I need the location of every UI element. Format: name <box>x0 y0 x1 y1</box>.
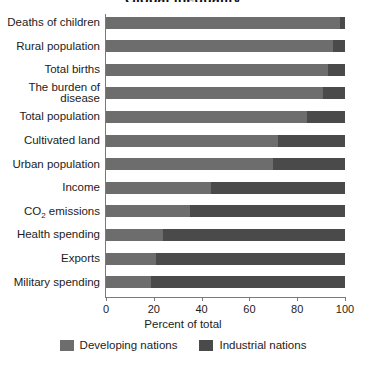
bar-track <box>106 17 345 29</box>
bar-segment-developing <box>106 182 211 194</box>
bar-segment-developing <box>106 135 278 147</box>
x-axis-tick-label: 60 <box>243 303 255 315</box>
bar-track <box>106 205 345 217</box>
x-axis-tick-label: 80 <box>291 303 303 315</box>
bar-track <box>106 40 345 52</box>
bar-segment-industrial <box>333 40 345 52</box>
bar-track <box>106 158 345 170</box>
bar-segment-industrial <box>211 182 345 194</box>
bar-row: Total births <box>0 61 366 78</box>
bar-row-label: Health spending <box>0 226 100 243</box>
bar-row-label: Exports <box>0 250 100 267</box>
legend-swatch-icon <box>60 340 74 351</box>
bar-track <box>106 182 345 194</box>
bar-segment-developing <box>106 111 307 123</box>
x-axis-tick-label: 20 <box>148 303 160 315</box>
x-axis-tick-mark <box>106 297 107 301</box>
x-axis-tick-mark <box>249 297 250 301</box>
legend-label: Industrial nations <box>219 339 306 351</box>
bar-row: Health spending <box>0 226 366 243</box>
bar-segment-developing <box>106 205 190 217</box>
bar-segment-industrial <box>156 253 345 265</box>
bar-track <box>106 87 345 99</box>
bar-segment-industrial <box>328 64 345 76</box>
bar-row-label: Cultivated land <box>0 132 100 149</box>
bar-row: Urban population <box>0 156 366 173</box>
bar-segment-developing <box>106 253 156 265</box>
bar-row-label: Income <box>0 179 100 196</box>
x-axis-tick-label: 40 <box>195 303 207 315</box>
bar-segment-industrial <box>190 205 345 217</box>
x-axis-tick-label: 0 <box>103 303 109 315</box>
bar-track <box>106 229 345 241</box>
bar-segment-industrial <box>163 229 345 241</box>
bar-row: CO2 emissions <box>0 203 366 220</box>
legend-swatch-icon <box>199 340 213 351</box>
x-axis-tick-mark <box>345 297 346 301</box>
bar-chart-plot-area: Deaths of childrenRural populationTotal … <box>0 0 366 369</box>
legend-item[interactable]: Developing nations <box>60 339 178 351</box>
bar-row-label: The burden of disease <box>0 82 100 104</box>
x-axis-tick-label: 100 <box>336 303 354 315</box>
bar-row: Military spending <box>0 274 366 291</box>
x-axis-tick-mark <box>297 297 298 301</box>
bar-segment-industrial <box>151 276 345 288</box>
bar-row-label: Rural population <box>0 38 100 55</box>
bar-segment-developing <box>106 87 323 99</box>
bar-row: Cultivated land <box>0 132 366 149</box>
bar-row-label: Total births <box>0 61 100 78</box>
x-axis-line <box>105 297 346 298</box>
bar-track <box>106 276 345 288</box>
bar-row: The burden of disease <box>0 85 366 102</box>
bar-segment-industrial <box>273 158 345 170</box>
legend-item[interactable]: Industrial nations <box>199 339 306 351</box>
bar-segment-developing <box>106 229 163 241</box>
bar-segment-industrial <box>340 17 345 29</box>
chart-legend: Developing nationsIndustrial nations <box>0 339 366 351</box>
bar-row-label: Deaths of children <box>0 14 100 31</box>
bar-segment-developing <box>106 40 333 52</box>
bar-segment-developing <box>106 276 151 288</box>
x-axis-title: Percent of total <box>0 318 366 330</box>
bar-segment-industrial <box>307 111 345 123</box>
bar-track <box>106 253 345 265</box>
bar-segment-industrial <box>323 87 345 99</box>
bar-row-label: Urban population <box>0 156 100 173</box>
x-axis-tick-mark <box>202 297 203 301</box>
bar-row: Rural population <box>0 38 366 55</box>
x-axis-tick-mark <box>154 297 155 301</box>
bar-track <box>106 64 345 76</box>
bar-row: Deaths of children <box>0 14 366 31</box>
bar-segment-developing <box>106 17 340 29</box>
bar-track <box>106 135 345 147</box>
bar-segment-developing <box>106 158 273 170</box>
bar-row: Total population <box>0 108 366 125</box>
bar-row: Exports <box>0 250 366 267</box>
bar-row-label: Military spending <box>0 274 100 291</box>
bar-row-label: Total population <box>0 108 100 125</box>
bar-segment-developing <box>106 64 328 76</box>
bar-track <box>106 111 345 123</box>
bar-row: Income <box>0 179 366 196</box>
bar-segment-industrial <box>278 135 345 147</box>
legend-label: Developing nations <box>80 339 178 351</box>
bar-row-label: CO2 emissions <box>0 203 100 224</box>
